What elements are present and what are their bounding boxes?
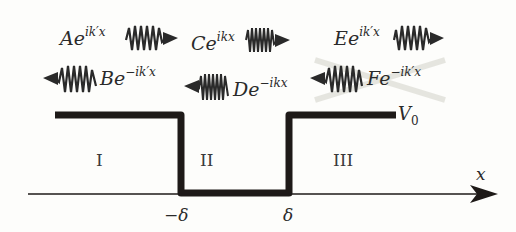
wave-d-icon bbox=[184, 74, 228, 100]
term-d: De−ikx bbox=[233, 78, 287, 100]
wave-c-icon bbox=[246, 28, 290, 52]
term-f: Fe−ik′x bbox=[367, 67, 421, 89]
potential-well-diagram: Aeik′x Be−ik′x Ceikx De−ikx Eeik′x Fe−ik… bbox=[0, 0, 516, 232]
wave-b-icon bbox=[43, 66, 96, 92]
tick-delta: δ bbox=[283, 205, 293, 225]
x-axis-label: x bbox=[476, 164, 486, 184]
wave-a-icon bbox=[126, 26, 178, 50]
wave-e-icon bbox=[394, 26, 444, 50]
term-a: Aeik′x bbox=[60, 27, 106, 49]
region-label-i: I bbox=[96, 150, 103, 170]
term-b: Be−ik′x bbox=[100, 67, 156, 89]
tick-minus-delta: −δ bbox=[164, 205, 188, 225]
region-label-ii: II bbox=[200, 150, 213, 170]
term-c: Ceikx bbox=[191, 32, 235, 54]
region-label-iii: III bbox=[333, 150, 353, 170]
term-e: Eeik′x bbox=[334, 27, 380, 49]
potential-label: V0 bbox=[398, 103, 419, 128]
